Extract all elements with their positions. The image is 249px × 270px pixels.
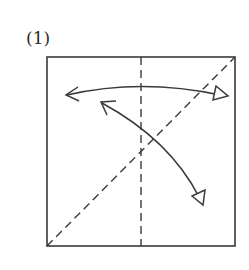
- diagonal-arrow-arc: [102, 103, 199, 197]
- diagram-drawing: [0, 0, 249, 270]
- horizontal-arrow-arc: [67, 87, 220, 96]
- hollow-triangle-arrowhead-lower-right-icon: [192, 190, 205, 205]
- diagonal-fold-unfold-arrow: [101, 101, 205, 205]
- origami-diagram: (1): [0, 0, 249, 270]
- hollow-triangle-arrowhead-right-icon: [213, 86, 228, 100]
